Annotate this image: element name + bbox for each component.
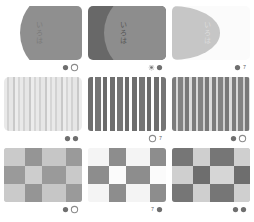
badge-dot-ring-icon — [149, 65, 154, 70]
tile-7-caption — [4, 204, 82, 215]
tile-cell-4[interactable] — [4, 77, 82, 144]
tile-cell-7[interactable] — [4, 148, 82, 215]
stripe-pattern-4 — [4, 77, 82, 131]
tile-cell-6[interactable] — [172, 77, 250, 144]
tile-8-caption: 7 — [88, 204, 166, 215]
badge-dot-icon — [73, 136, 78, 141]
tile-3-caption: 7 — [172, 62, 250, 73]
tile-2-vertical-text: いろは — [118, 21, 127, 45]
contact-sheet: いろは いろは いろは 7 — [0, 0, 254, 222]
badge-dot-icon — [241, 207, 246, 212]
tile-5-caption: 7 — [88, 133, 166, 144]
rounded-blob-shape-icon — [172, 6, 220, 60]
tile-1-vertical-text: いろは — [34, 21, 43, 45]
stripe-pattern-5 — [88, 77, 166, 131]
tile-cell-9[interactable] — [172, 148, 250, 215]
badge-dot-icon — [65, 136, 70, 141]
tile-row-2: 7 — [4, 77, 250, 144]
tile-4-caption — [4, 133, 82, 144]
tile-3-vertical-text: いろは — [202, 21, 211, 45]
test-pattern-tile-2[interactable]: いろは — [88, 6, 166, 60]
tile-cell-5[interactable]: 7 — [88, 77, 166, 144]
checkerboard-pattern-7 — [4, 148, 82, 202]
badge-dot-icon — [235, 65, 240, 70]
test-pattern-tile-4[interactable] — [4, 77, 82, 131]
tile-cell-8[interactable]: 7 — [88, 148, 166, 215]
test-pattern-tile-8[interactable] — [88, 148, 166, 202]
checkerboard-pattern-9 — [172, 148, 250, 202]
tile-cell-2[interactable]: いろは — [88, 6, 166, 73]
test-pattern-tile-1[interactable]: いろは — [4, 6, 82, 60]
badge-ring-icon — [149, 135, 156, 142]
badge-dot-icon — [233, 207, 238, 212]
tile-cell-3[interactable]: いろは 7 — [172, 6, 250, 73]
badge-ring-icon — [71, 206, 78, 213]
tile-cell-1[interactable]: いろは — [4, 6, 82, 73]
test-pattern-tile-5[interactable] — [88, 77, 166, 131]
tile-row-3: 7 — [4, 148, 250, 215]
badge-dot-icon — [157, 65, 162, 70]
badge-label: 7 — [243, 65, 246, 70]
tile-2-caption — [88, 62, 166, 73]
test-pattern-tile-7[interactable] — [4, 148, 82, 202]
test-pattern-tile-3[interactable]: いろは — [172, 6, 250, 60]
badge-dot-icon — [231, 136, 236, 141]
stripe-pattern-6 — [172, 77, 250, 131]
badge-ring-icon — [71, 64, 78, 71]
badge-dot-icon — [63, 65, 68, 70]
badge-ring-icon — [239, 135, 246, 142]
tile-6-caption — [172, 133, 250, 144]
badge-dot-icon — [157, 207, 162, 212]
test-pattern-tile-9[interactable] — [172, 148, 250, 202]
tile-9-caption — [172, 204, 250, 215]
badge-dot-icon — [63, 207, 68, 212]
circle-shape-icon — [104, 6, 166, 60]
tile-1-caption — [4, 62, 82, 73]
badge-label: 7 — [151, 207, 154, 212]
badge-label: 7 — [159, 136, 162, 141]
test-pattern-tile-6[interactable] — [172, 77, 250, 131]
checkerboard-pattern-8 — [88, 148, 166, 202]
tile-row-1: いろは いろは いろは 7 — [4, 6, 250, 73]
circle-shape-icon — [20, 6, 82, 60]
